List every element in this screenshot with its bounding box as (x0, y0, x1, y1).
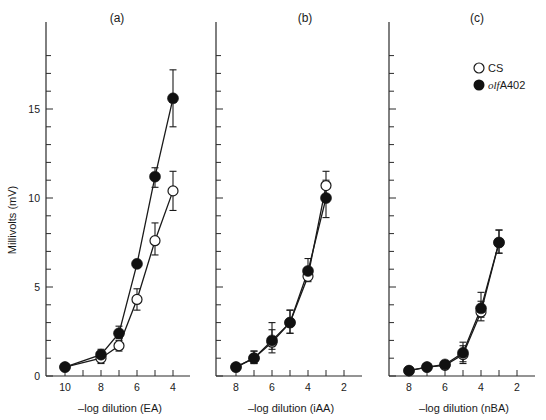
filled-circle-marker (285, 317, 296, 328)
x-tick-label: 6 (134, 381, 140, 393)
panel-a: (a)05101510864–log dilution (EA) (28, 11, 190, 414)
filled-circle-marker (458, 347, 469, 358)
x-axis-label: –log dilution (iAA) (248, 402, 334, 414)
filled-circle-marker (249, 353, 260, 364)
filled-circle-marker (494, 237, 505, 248)
x-tick-label: 2 (514, 381, 520, 393)
filled-circle-marker (60, 362, 71, 373)
open-circle-marker (114, 341, 124, 351)
panel-title: (c) (470, 11, 484, 25)
legend: CS olfA402 (474, 62, 526, 91)
filled-circle-marker (267, 335, 278, 346)
panel-c: (c)8642–log dilution (nBA) (389, 11, 535, 414)
figure: Millivolts (mV) (a)05101510864–log dilut… (0, 0, 546, 420)
series-line-olfa402 (236, 198, 326, 367)
filled-circle-marker (303, 265, 314, 276)
x-tick-label: 4 (478, 381, 484, 393)
x-axis-label: –log dilution (nBA) (419, 402, 509, 414)
x-tick-label: 6 (442, 381, 448, 393)
x-tick-label: 4 (305, 381, 311, 393)
x-tick-label: 2 (341, 381, 347, 393)
x-tick-label: 6 (269, 381, 275, 393)
filled-circle-marker (231, 362, 242, 373)
x-tick-label: 8 (233, 381, 239, 393)
filled-circle-marker (440, 359, 451, 370)
x-tick-label: 10 (59, 381, 71, 393)
y-axis-label: Millivolts (mV) (6, 186, 18, 254)
x-tick-label: 8 (98, 381, 104, 393)
legend-label-mutant-rest: A402 (500, 79, 526, 91)
legend-label-cs: CS (488, 62, 503, 74)
filled-circle-marker (114, 328, 125, 339)
legend-open-circle-icon (474, 63, 484, 73)
filled-circle-marker (168, 93, 179, 104)
y-tick-label: 10 (28, 192, 40, 204)
panel-title: (b) (298, 11, 313, 25)
panel-title: (a) (110, 11, 125, 25)
y-tick-label: 0 (34, 370, 40, 382)
panel-b: (b)8642–log dilution (iAA) (216, 11, 362, 414)
filled-circle-marker (150, 171, 161, 182)
open-circle-marker (168, 186, 178, 196)
legend-label-mutant: olfA402 (488, 79, 525, 91)
open-circle-marker (150, 236, 160, 246)
open-circle-marker (132, 294, 142, 304)
filled-circle-marker (404, 365, 415, 376)
filled-circle-marker (132, 258, 143, 269)
chart-canvas: Millivolts (mV) (a)05101510864–log dilut… (0, 0, 546, 420)
open-circle-marker (321, 181, 331, 191)
filled-circle-marker (96, 349, 107, 360)
x-axis-label: –log dilution (EA) (78, 402, 162, 414)
y-tick-label: 15 (28, 103, 40, 115)
x-tick-label: 8 (406, 381, 412, 393)
filled-circle-marker (476, 303, 487, 314)
filled-circle-marker (422, 362, 433, 373)
y-tick-label: 5 (34, 281, 40, 293)
filled-circle-marker (321, 193, 332, 204)
legend-filled-circle-icon (474, 80, 485, 91)
x-tick-label: 4 (170, 381, 176, 393)
